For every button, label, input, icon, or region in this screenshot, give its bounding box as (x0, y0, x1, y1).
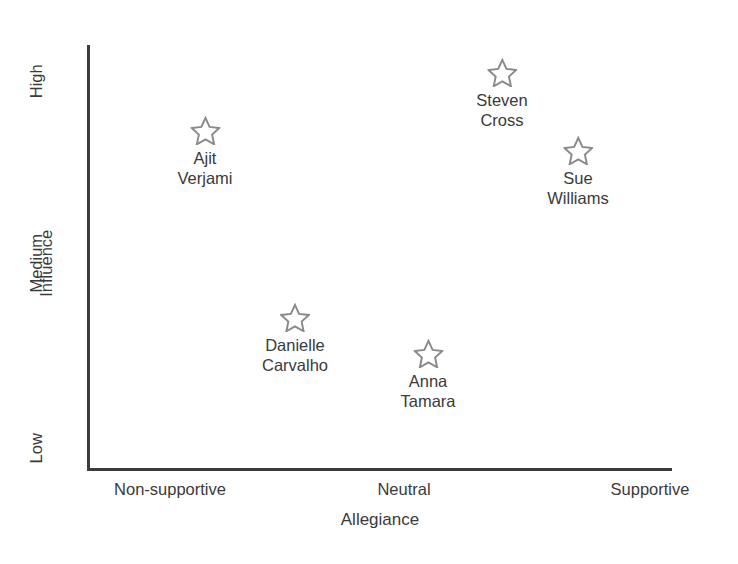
data-point-steven-cross[interactable]: Steven Cross (476, 58, 527, 130)
data-point-anna-tamara[interactable]: Anna Tamara (400, 339, 455, 411)
data-point-sue-williams[interactable]: Sue Williams (547, 136, 608, 208)
x-tick-label-neutral: Neutral (377, 481, 430, 498)
data-point-ajit-verjami[interactable]: Ajit Verjami (177, 116, 232, 188)
data-point-danielle-carvalho[interactable]: Danielle Carvalho (262, 303, 328, 375)
x-tick-label-supportive: Supportive (611, 481, 690, 498)
star-icon (177, 116, 232, 145)
x-axis-line (87, 468, 672, 471)
data-point-label-line2: Verjami (177, 168, 232, 188)
data-point-label: Steven Cross (476, 90, 527, 130)
x-tick-label-non-supportive: Non-supportive (114, 481, 226, 498)
data-point-label-line2: Cross (476, 110, 527, 130)
influence-allegiance-chart: Influence High Medium Low Non-supportive… (0, 0, 738, 564)
data-point-label: Ajit Verjami (177, 148, 232, 188)
star-icon (262, 303, 328, 332)
data-point-label-line1: Ajit (177, 148, 232, 168)
data-point-label-line1: Anna (400, 371, 455, 391)
y-tick-label-low: Low (28, 400, 45, 496)
y-axis-line (87, 45, 90, 471)
data-point-label-line2: Williams (547, 188, 608, 208)
x-axis-title: Allegiance (341, 511, 419, 528)
y-tick-label-medium: Medium (28, 215, 45, 311)
data-point-label: Sue Williams (547, 168, 608, 208)
data-point-label-line1: Danielle (262, 335, 328, 355)
star-icon (400, 339, 455, 368)
y-tick-label-high: High (28, 33, 45, 129)
data-point-label-line2: Carvalho (262, 355, 328, 375)
star-icon (476, 58, 527, 87)
data-point-label: Anna Tamara (400, 371, 455, 411)
data-point-label-line1: Sue (547, 168, 608, 188)
data-point-label-line2: Tamara (400, 391, 455, 411)
data-point-label-line1: Steven (476, 90, 527, 110)
data-point-label: Danielle Carvalho (262, 335, 328, 375)
star-icon (547, 136, 608, 165)
